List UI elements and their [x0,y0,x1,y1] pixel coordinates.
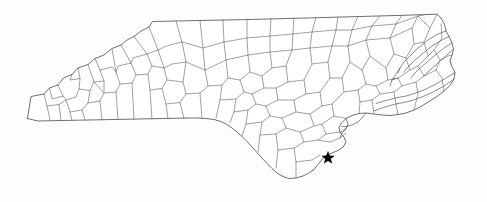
north-carolina-county-map [0,0,487,202]
map-figure [0,0,487,202]
